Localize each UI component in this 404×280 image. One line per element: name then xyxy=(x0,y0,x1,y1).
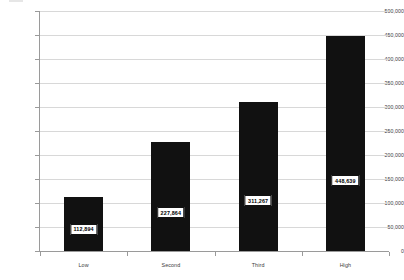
y-axis-tick xyxy=(35,83,39,84)
y-axis-tick xyxy=(35,107,39,108)
gridline xyxy=(40,11,389,12)
plot-area: 112,894227,864311,267448,639 xyxy=(40,11,389,251)
x-axis-tick xyxy=(302,252,303,256)
bar-chart: 500,000450,000400,000350,000300,000250,0… xyxy=(0,0,404,280)
bar-value-label: 448,639 xyxy=(332,175,360,186)
y-axis-tick xyxy=(35,59,39,60)
bar-value-label: 227,864 xyxy=(157,207,185,218)
x-axis-tick xyxy=(389,252,390,256)
y-axis-tick xyxy=(35,179,39,180)
y-axis-tick xyxy=(35,155,39,156)
bar-value-label: 112,894 xyxy=(70,224,97,235)
y-axis-tick xyxy=(35,11,39,12)
x-axis-category-label: Third xyxy=(252,262,265,268)
bar[interactable]: 227,864 xyxy=(151,142,190,251)
x-axis-category-label: High xyxy=(340,262,352,268)
x-axis-tick xyxy=(215,252,216,256)
x-axis-category-label: Second xyxy=(161,262,180,268)
x-axis-category-label: Low xyxy=(79,262,89,268)
y-axis-tick xyxy=(35,203,39,204)
y-axis-tick xyxy=(35,131,39,132)
clipped-top-artifact xyxy=(9,0,23,2)
x-axis-tick xyxy=(40,252,41,256)
bar-value-label: 311,267 xyxy=(245,195,272,206)
bar[interactable]: 311,267 xyxy=(239,102,278,251)
bar[interactable]: 112,894 xyxy=(64,197,103,251)
bar[interactable]: 448,639 xyxy=(326,36,365,251)
y-axis-tick xyxy=(35,35,39,36)
x-axis-tick xyxy=(127,252,128,256)
y-axis-tick xyxy=(35,227,39,228)
